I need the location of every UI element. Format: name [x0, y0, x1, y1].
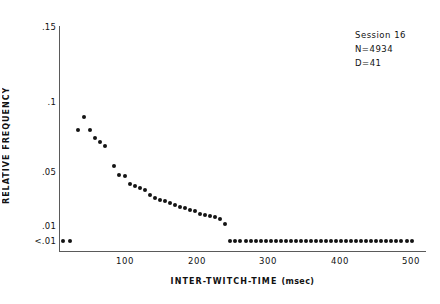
data-point: [208, 214, 212, 218]
x-axis-line: [59, 251, 426, 252]
data-point: [405, 239, 409, 243]
data-point: [379, 239, 383, 243]
data-point: [269, 239, 273, 243]
data-point: [354, 239, 358, 243]
data-point: [123, 174, 127, 178]
data-point: [374, 239, 378, 243]
data-point: [228, 239, 232, 243]
x-tick-label: 400: [331, 256, 349, 266]
data-point: [324, 239, 328, 243]
data-point: [173, 203, 177, 207]
data-point: [158, 198, 162, 202]
x-tick-label: 100: [116, 256, 134, 266]
data-point: [153, 196, 157, 200]
data-point: [319, 239, 323, 243]
data-point: [329, 239, 333, 243]
y-tick-label: .15: [42, 22, 56, 32]
data-point: [410, 239, 414, 243]
x-axis-title-unit: (msec): [281, 277, 314, 286]
data-point: [148, 193, 152, 197]
data-point: [244, 239, 248, 243]
data-point: [309, 239, 313, 243]
data-point: [254, 239, 258, 243]
data-point: [188, 208, 192, 212]
annotation-line-0: Session 16: [355, 28, 406, 42]
x-axis-title: INTER-TWITCH-TIME (msec): [59, 277, 426, 286]
data-point: [198, 212, 202, 216]
y-tick-label: <.01: [35, 236, 56, 246]
data-point: [389, 239, 393, 243]
data-point: [249, 239, 253, 243]
data-point: [203, 213, 207, 217]
y-axis-line: [59, 26, 60, 252]
data-point: [103, 144, 107, 148]
data-point: [314, 239, 318, 243]
data-point: [93, 136, 97, 140]
data-point: [399, 239, 403, 243]
data-point: [82, 115, 86, 119]
data-point: [264, 239, 268, 243]
y-tick-label: .01: [42, 221, 56, 231]
data-point: [233, 239, 237, 243]
data-point: [117, 173, 121, 177]
annotation-block: Session 16N=4934D=41: [355, 28, 406, 70]
data-point: [112, 164, 116, 168]
data-point: [138, 186, 142, 190]
data-point: [178, 205, 182, 209]
x-tick-label: 200: [188, 256, 206, 266]
data-point: [289, 239, 293, 243]
data-point: [349, 239, 353, 243]
data-point: [364, 239, 368, 243]
data-point: [359, 239, 363, 243]
data-point: [143, 188, 147, 192]
data-point: [384, 239, 388, 243]
data-point: [339, 239, 343, 243]
data-point: [76, 128, 80, 132]
x-axis-title-text: INTER-TWITCH-TIME: [171, 277, 278, 286]
figure-root: .15.1.05.01<.01 100200300400500 INTER-TW…: [0, 0, 440, 304]
data-point: [274, 239, 278, 243]
data-point: [238, 239, 242, 243]
data-point: [193, 209, 197, 213]
data-point: [163, 199, 167, 203]
data-point: [128, 182, 132, 186]
x-tick-label: 300: [259, 256, 277, 266]
data-point: [394, 239, 398, 243]
y-tick-label: .05: [42, 167, 56, 177]
data-point: [61, 239, 65, 243]
data-point: [369, 239, 373, 243]
annotation-line-1: N=4934: [355, 42, 406, 56]
y-tick-label: .1: [47, 97, 56, 107]
data-point: [344, 239, 348, 243]
data-point: [259, 239, 263, 243]
data-point: [299, 239, 303, 243]
data-point: [334, 239, 338, 243]
annotation-line-2: D=41: [355, 56, 406, 70]
data-point: [218, 217, 222, 221]
data-point: [223, 222, 227, 226]
data-point: [168, 201, 172, 205]
data-point: [304, 239, 308, 243]
data-point: [294, 239, 298, 243]
data-point: [68, 239, 72, 243]
data-point: [88, 128, 92, 132]
data-point: [98, 140, 102, 144]
y-axis-title: RELATIVE FREQUENCY: [2, 88, 18, 204]
data-point: [284, 239, 288, 243]
data-point: [133, 184, 137, 188]
data-point: [183, 206, 187, 210]
data-point: [213, 215, 217, 219]
x-tick-label: 500: [402, 256, 420, 266]
data-point: [279, 239, 283, 243]
